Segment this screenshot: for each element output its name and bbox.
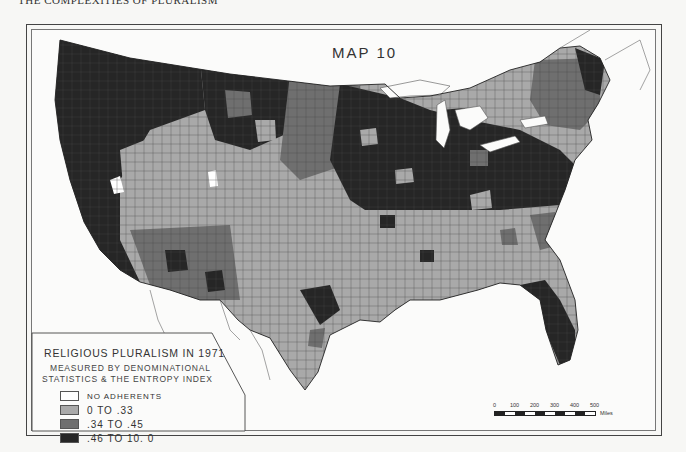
scale-tick: 100 — [510, 402, 519, 408]
swatch-no-adherents — [60, 391, 79, 401]
legend-subtitle-line2: STATISTICS & THE ENTROPY INDEX — [42, 374, 213, 384]
scale-tick: 200 — [530, 402, 539, 408]
legend-item-high: .46 TO 10. 0 — [60, 432, 154, 444]
legend-item-no-adherents: NO ADHERENTS — [60, 390, 162, 402]
swatch-high — [60, 433, 79, 443]
swatch-low — [60, 405, 79, 415]
legend-label: 0 TO .33 — [87, 405, 134, 416]
legend-item-mid: .34 TO .45 — [60, 418, 144, 430]
legend-label: .34 TO .45 — [87, 419, 144, 430]
legend-item-low: 0 TO .33 — [60, 404, 134, 416]
scale-tick: 400 — [570, 402, 579, 408]
legend-label: NO ADHERENTS — [87, 392, 162, 401]
scale-unit: Miles — [600, 410, 613, 416]
legend: RELIGIOUS PLURALISM IN 1971 MEASURED BY … — [32, 340, 242, 430]
map-title: MAP 10 — [332, 44, 397, 61]
swatch-mid — [60, 419, 79, 429]
legend-label: .46 TO 10. 0 — [87, 433, 154, 444]
scale-tick: 500 — [590, 402, 599, 408]
scale-bar-graphic — [494, 411, 596, 416]
scale-bar: 0 100 200 300 400 500 Miles — [494, 402, 654, 422]
scale-tick: 0 — [493, 402, 496, 408]
scale-tick: 300 — [550, 402, 559, 408]
legend-subtitle-line1: MEASURED BY DENOMINATIONAL — [50, 363, 211, 373]
legend-title: RELIGIOUS PLURALISM IN 1971 — [44, 347, 225, 359]
